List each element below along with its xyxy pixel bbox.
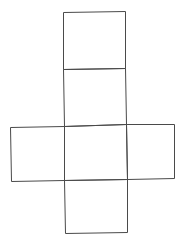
cube-net-diagram (0, 0, 186, 243)
face-bottom (65, 180, 128, 234)
cube-net-svg (0, 0, 186, 243)
face-upper-middle (64, 69, 127, 127)
face-right (127, 125, 175, 180)
face-center (65, 125, 128, 181)
face-left (11, 127, 65, 182)
face-top (64, 12, 126, 70)
